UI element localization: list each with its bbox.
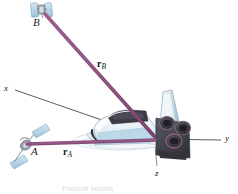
label-axis-z: z: [155, 169, 159, 178]
vector-r-b-subscript: B: [101, 62, 106, 71]
satellite-a: [10, 124, 50, 169]
vector-r-a-subscript: A: [67, 150, 72, 159]
figure-caption: Position vectors: [62, 186, 113, 193]
label-point-b: B: [33, 17, 40, 28]
caption-strip: Position vectors: [0, 186, 238, 194]
vector-r-b: [45, 14, 155, 137]
label-vector-r-a: rA: [63, 147, 72, 158]
label-axis-x: x: [4, 84, 8, 93]
label-point-a: A: [31, 146, 38, 157]
label-vector-r-b: rB: [97, 59, 106, 70]
figure-container: B A x y z rB rA Position vectors: [0, 0, 238, 194]
label-axis-y: y: [225, 134, 229, 143]
vector-diagram-svg: [0, 0, 238, 194]
